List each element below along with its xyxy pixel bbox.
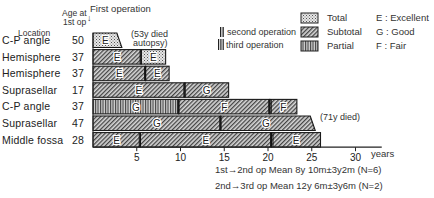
row-age-label: 28 [72, 134, 84, 146]
legend-swatch-total [301, 13, 318, 23]
table-row: EE [93, 33, 122, 48]
bars-layer: EEEEEEEEEEEEGGGGFFFFGGGGEEEEEE [93, 33, 321, 147]
outcome-label: E [150, 52, 157, 63]
first-operation-arrow-icon: ↓ [87, 13, 92, 23]
legend-excellent: E : Excellent [376, 12, 429, 23]
legend-good: G : Good [376, 26, 415, 37]
outcome-label: E [293, 135, 300, 146]
row-age-label: 37 [72, 100, 84, 112]
outcome-label: E [102, 35, 109, 46]
x-axis-unit: years [371, 148, 394, 159]
stats-line-1: 1st→2nd op Mean 8y 10m±3y2m (N=6) [215, 164, 382, 175]
row-location-label: Suprasellar [2, 117, 57, 129]
table-row: EEEE [93, 66, 169, 81]
outcome-label: G [262, 118, 270, 129]
legend-total: Total [327, 12, 347, 23]
table-row: GGGG [93, 116, 315, 131]
third-operation-marker-icon [218, 39, 224, 50]
table-row: EEGG [93, 83, 229, 98]
outcome-label: F [280, 102, 286, 113]
outcome-label: G [153, 118, 161, 129]
outcome-label: E [203, 135, 210, 146]
row-location-label: Hemisphere [2, 51, 61, 63]
outcome-label: E [136, 85, 143, 96]
outcome-label: E [113, 135, 120, 146]
x-tick-label: 20 [262, 152, 274, 163]
legend-second-operation: second operation [227, 27, 296, 37]
row-age-label: 50 [72, 34, 84, 46]
table-row: EEEE [93, 50, 166, 65]
row-age-label: 17 [72, 84, 84, 96]
outcome-label: G [203, 85, 211, 96]
row-location-label: Middle fossa [2, 134, 63, 146]
row-location-label: C-P angle [2, 34, 50, 46]
outcome-label: E [116, 68, 123, 79]
table-row: EEEEEE [93, 133, 321, 148]
age-header-line2: 1st op [63, 17, 86, 27]
outcome-label: G [132, 102, 140, 113]
legend-subtotal: Subtotal [327, 26, 362, 37]
row-age-label: 37 [72, 51, 84, 63]
outcome-label: F [221, 102, 227, 113]
row-location-label: Suprasellar [2, 84, 57, 96]
legend-swatch-partial [301, 41, 318, 51]
x-tick-label: 25 [306, 152, 318, 163]
x-tick-label: 5 [134, 152, 140, 163]
legend-partial: Partial [327, 40, 354, 51]
outcome-label: E [154, 68, 161, 79]
row-location-label: C-P angle [2, 100, 50, 112]
legend-third-operation: third operation [226, 40, 284, 50]
second-operation-marker-icon [220, 27, 224, 37]
legend-fair: F : Fair [376, 40, 406, 51]
table-row: GGFFFF [93, 99, 297, 114]
x-tick-label: 30 [350, 152, 362, 163]
x-tick-label: 15 [219, 152, 231, 163]
stats-line-2: 2nd→3rd op Mean 12y 6m±3y6m (N=2) [215, 180, 383, 191]
row-age-label: 37 [72, 67, 84, 79]
x-tick-label: 10 [175, 152, 187, 163]
outcome-label: E [114, 52, 121, 63]
death-note-row1-line2: autopsy) [133, 38, 168, 48]
death-note-row6: (71y died) [320, 112, 360, 122]
row-location-label: Hemisphere [2, 67, 61, 79]
row-age-label: 47 [72, 117, 84, 129]
first-operation-label: First operation [90, 3, 151, 14]
legend-swatch-subtotal [301, 27, 318, 37]
